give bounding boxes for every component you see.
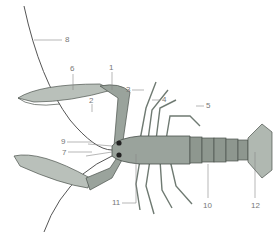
abdomen (190, 137, 248, 163)
label-1: 1 (109, 64, 113, 72)
antenna-left (24, 6, 112, 150)
eye-lower (116, 152, 121, 157)
label-6: 6 (70, 65, 74, 73)
label-9: 9 (61, 138, 65, 146)
label-11: 11 (112, 199, 120, 207)
tail-fan (248, 124, 272, 178)
lower-claw (14, 155, 90, 188)
crayfish-diagram (0, 0, 277, 232)
eye-upper (116, 140, 121, 145)
label-10: 10 (203, 202, 212, 210)
label-8: 8 (65, 36, 69, 44)
label-5: 5 (206, 102, 210, 110)
carapace (112, 136, 190, 164)
lower-arm (86, 156, 122, 190)
upper-claw (18, 84, 112, 102)
label-12: 12 (251, 202, 260, 210)
label-2: 2 (89, 97, 93, 105)
label-4: 4 (162, 96, 166, 104)
label-3: 3 (126, 86, 130, 94)
label-7: 7 (62, 149, 66, 157)
